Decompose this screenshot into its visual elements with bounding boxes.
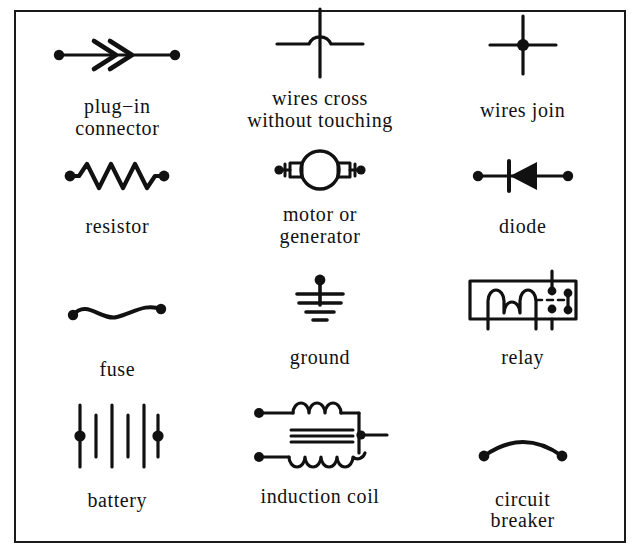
motor-or-generator-icon (219, 142, 422, 196)
symbol-chart-sheet: plug−in connector wires cross without to… (0, 0, 644, 557)
fuse-icon (16, 267, 219, 343)
diode-icon (421, 142, 624, 202)
diode-label: diode (499, 216, 546, 238)
symbol-cell-fuse: fuse (16, 267, 219, 392)
symbol-cell-circuit-breaker: circuit breaker (421, 392, 624, 532)
symbol-cell-motor-or-generator: motor or generator (219, 142, 422, 267)
circuit-breaker-icon (421, 392, 624, 477)
wires-cross-without-touching-label: wires cross without touching (247, 88, 393, 131)
battery-label: battery (87, 490, 147, 512)
ground-label: ground (290, 347, 350, 369)
wires-join-label: wires join (480, 100, 565, 122)
fuse-label: fuse (99, 359, 135, 381)
wires-cross-without-touching-icon (219, 12, 422, 72)
relay-label: relay (501, 347, 544, 369)
wires-join-icon (421, 12, 624, 74)
symbol-cell-wires-cross-without-touching: wires cross without touching (219, 12, 422, 142)
battery-icon (16, 392, 219, 474)
resistor-icon (16, 142, 219, 202)
symbol-cell-resistor: resistor (16, 142, 219, 267)
induction-coil-label: induction coil (261, 486, 380, 508)
motor-or-generator-label: motor or generator (280, 204, 361, 247)
relay-icon (421, 267, 624, 331)
symbol-cell-wires-join: wires join (421, 12, 624, 142)
resistor-label: resistor (85, 216, 149, 238)
symbol-cell-induction-coil: induction coil (219, 392, 422, 532)
symbol-grid: plug−in connector wires cross without to… (16, 12, 624, 541)
symbol-cell-battery: battery (16, 392, 219, 532)
symbol-cell-ground: ground (219, 267, 422, 392)
symbol-cell-diode: diode (421, 142, 624, 267)
symbol-cell-plug-in-connector: plug−in connector (16, 12, 219, 142)
plug-in-connector-label: plug−in connector (75, 96, 159, 139)
plug-in-connector-icon (16, 12, 219, 84)
induction-coil-icon (219, 392, 422, 472)
circuit-breaker-label: circuit breaker (491, 489, 555, 532)
symbol-cell-relay: relay (421, 267, 624, 392)
ground-icon (219, 267, 422, 331)
